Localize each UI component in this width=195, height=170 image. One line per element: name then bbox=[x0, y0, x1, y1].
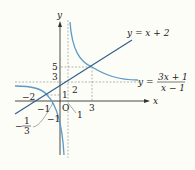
graph-canvas: y x O y = x + 2 y = 3x + 1 x − 1 5 3 2 1… bbox=[0, 0, 195, 170]
hyperbola-label-numerator: 3x + 1 bbox=[158, 72, 188, 82]
tick-y-3: 3 bbox=[52, 72, 58, 82]
frac-numerator: 1 bbox=[24, 116, 30, 126]
tick-y-1: 1 bbox=[62, 90, 68, 100]
frac-denominator: 3 bbox=[24, 126, 30, 136]
tick-x-neg1: −1 bbox=[37, 104, 50, 114]
x-axis-arrow-icon bbox=[144, 99, 150, 103]
line-equation-label: y = x + 2 bbox=[126, 28, 170, 38]
x-axis-label: x bbox=[153, 96, 158, 106]
tick-x-1: 1 bbox=[77, 110, 83, 120]
y-axis-arrow-icon bbox=[58, 21, 62, 27]
frac-sign: − bbox=[15, 121, 23, 131]
tick-y-5: 5 bbox=[52, 62, 58, 72]
tick-x-neg2: −2 bbox=[22, 92, 35, 102]
tick-y-neg1: −1 bbox=[47, 114, 60, 124]
hyperbola-label-denominator: x − 1 bbox=[161, 83, 185, 93]
origin-label: O bbox=[62, 103, 69, 113]
y-axis-label: y bbox=[56, 10, 63, 20]
tick-x-3: 3 bbox=[89, 103, 95, 113]
axes bbox=[15, 24, 148, 155]
tick-y-2: 2 bbox=[72, 85, 78, 95]
hyperbola-label-lhs: y = bbox=[137, 77, 154, 87]
